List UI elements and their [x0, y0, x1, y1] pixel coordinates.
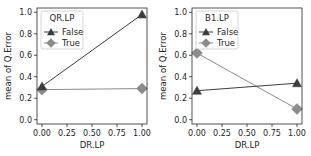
x-tick-label: 0.50: [83, 129, 101, 138]
chart-panel-b1-lp: 0.000.250.500.751.00 0.00.20.40.60.81.0 …: [158, 8, 306, 150]
chart-panel-qr-lp: 0.000.250.500.751.00 0.00.20.40.60.81.0 …: [3, 8, 151, 150]
x-tick-label: 0.25: [58, 129, 76, 138]
y-tick-label: 0.2: [19, 94, 32, 103]
x-tick-label: 1.00: [288, 129, 306, 138]
x-tick-label: 0.00: [188, 129, 206, 138]
legend: QR.LP False True: [41, 11, 83, 49]
svg-text:False: False: [62, 27, 83, 37]
series-line: [42, 89, 142, 90]
y-tick-label: 0.4: [19, 73, 32, 82]
chart-figure: 0.000.250.500.751.00 0.00.20.40.60.81.0 …: [0, 0, 311, 156]
x-axis-label: DR.LP: [235, 140, 260, 150]
y-axis-ticks: 0.00.20.40.60.81.0: [19, 8, 37, 124]
y-tick-label: 1.0: [174, 8, 187, 17]
y-tick-label: 0.6: [174, 51, 187, 60]
x-tick-label: 0.50: [238, 129, 256, 138]
plot-area: [192, 48, 303, 115]
y-tick-label: 0.2: [174, 94, 187, 103]
x-axis-ticks: 0.000.250.500.751.00: [33, 124, 151, 138]
y-tick-label: 0.0: [19, 116, 32, 125]
legend: B1.LP False True: [196, 11, 238, 49]
y-tick-label: 1.0: [19, 8, 32, 17]
x-tick-label: 1.00: [133, 129, 151, 138]
y-axis-label: mean of Q.Error: [3, 32, 13, 100]
svg-text:True: True: [216, 38, 235, 48]
triangle-marker-icon: [138, 10, 147, 18]
diamond-marker-icon: [137, 83, 148, 94]
svg-text:False: False: [217, 27, 238, 37]
legend-title: QR.LP: [50, 13, 75, 23]
diamond-marker-icon: [292, 103, 303, 114]
x-axis-ticks: 0.000.250.500.751.00: [188, 124, 306, 138]
triangle-marker-icon: [38, 82, 47, 90]
svg-text:True: True: [61, 38, 80, 48]
y-tick-label: 0.0: [174, 116, 187, 125]
y-tick-label: 0.4: [174, 73, 187, 82]
x-tick-label: 0.75: [108, 129, 126, 138]
x-tick-label: 0.25: [213, 129, 231, 138]
series-line: [197, 53, 297, 109]
x-tick-label: 0.00: [33, 129, 51, 138]
x-tick-label: 0.75: [263, 129, 281, 138]
y-axis-label: mean of Q.Error: [158, 32, 168, 100]
triangle-marker-icon: [293, 79, 302, 87]
legend-title: B1.LP: [205, 13, 229, 23]
series-line: [197, 83, 297, 91]
y-tick-label: 0.8: [19, 30, 32, 39]
y-tick-label: 0.8: [174, 30, 187, 39]
x-axis-label: DR.LP: [80, 140, 105, 150]
y-tick-label: 0.6: [19, 51, 32, 60]
y-axis-ticks: 0.00.20.40.60.81.0: [174, 8, 192, 124]
